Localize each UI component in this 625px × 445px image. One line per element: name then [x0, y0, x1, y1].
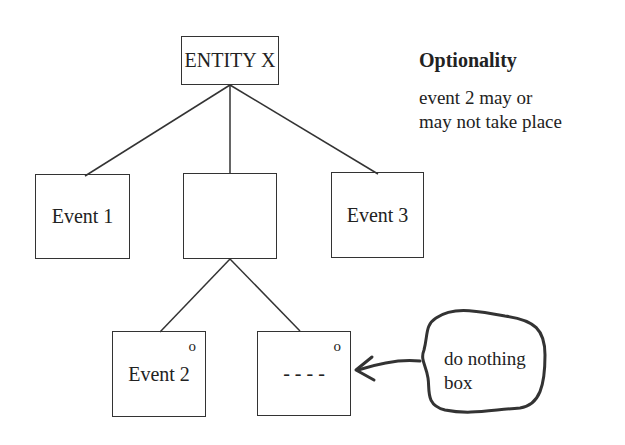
event-1-box: Event 1 — [35, 174, 130, 259]
optional-marker: o — [334, 338, 342, 355]
do-nothing-label: - - - - — [283, 362, 325, 385]
cloud-annotation: do nothing box — [444, 347, 526, 395]
legend: Optionality event 2 may or may not take … — [419, 48, 562, 134]
annotation-line-1: do nothing — [444, 347, 526, 371]
selection-box — [183, 173, 277, 259]
event-3-label: Event 3 — [347, 204, 409, 227]
arrow-icon — [356, 357, 420, 380]
event-2-label: Event 2 — [128, 363, 190, 386]
event-2-box: o Event 2 — [112, 331, 206, 417]
do-nothing-box: o - - - - — [257, 331, 351, 416]
legend-line-1: event 2 may or — [419, 86, 562, 110]
event-3-box: Event 3 — [331, 172, 424, 258]
optional-marker: o — [189, 338, 197, 355]
event-1-label: Event 1 — [52, 205, 114, 228]
annotation-line-2: box — [444, 371, 526, 395]
entity-x-label: ENTITY X — [185, 49, 276, 72]
legend-line-2: may not take place — [419, 110, 562, 134]
entity-x-box: ENTITY X — [181, 36, 279, 85]
legend-title: Optionality — [419, 48, 562, 72]
